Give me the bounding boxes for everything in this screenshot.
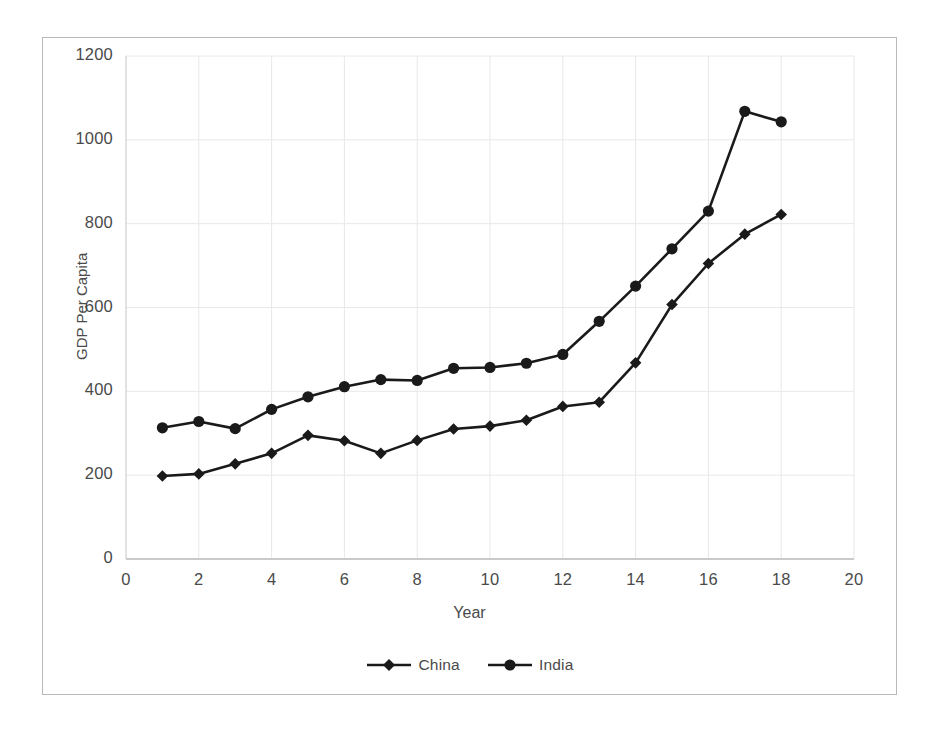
chart-legend: ChinaIndia	[43, 656, 896, 674]
y-axis-tick-label: 800	[85, 213, 113, 232]
legend-label: China	[418, 656, 460, 674]
data-point-marker	[484, 362, 495, 373]
x-axis-tick-label: 12	[538, 570, 588, 589]
legend-marker	[383, 659, 395, 671]
data-point-marker	[557, 401, 569, 413]
data-point-marker	[448, 423, 460, 435]
data-point-marker	[594, 316, 605, 327]
x-axis-title: Year	[43, 604, 896, 622]
data-point-marker	[557, 349, 568, 360]
y-axis-tick-label: 1000	[75, 129, 113, 148]
data-point-marker	[412, 375, 423, 386]
y-axis-tick-label: 1200	[75, 45, 113, 64]
series-line-china	[162, 214, 781, 476]
data-point-marker	[411, 435, 423, 447]
y-axis-tick-label: 600	[85, 297, 113, 316]
data-point-marker	[630, 281, 641, 292]
x-axis-tick-label: 0	[101, 570, 151, 589]
data-point-marker	[266, 404, 277, 415]
x-axis-tick-label: 14	[611, 570, 661, 589]
x-axis-tick-label: 20	[829, 570, 879, 589]
x-axis-tick-label: 16	[683, 570, 733, 589]
data-point-marker	[339, 381, 350, 392]
data-point-marker	[157, 422, 168, 433]
data-point-marker	[302, 430, 314, 442]
diamond-marker-icon	[365, 657, 413, 673]
x-axis-tick-label: 6	[319, 570, 369, 589]
data-point-marker	[302, 391, 313, 402]
data-point-marker	[775, 209, 787, 221]
y-axis-tick-label: 0	[104, 548, 113, 567]
data-point-marker	[666, 243, 677, 254]
data-point-marker	[229, 458, 241, 470]
data-point-marker	[448, 363, 459, 374]
legend-marker	[504, 659, 515, 670]
legend-item-china[interactable]: China	[365, 656, 460, 674]
x-axis-tick-label: 2	[174, 570, 224, 589]
legend-item-india[interactable]: India	[486, 656, 574, 674]
y-axis-tick-label: 400	[85, 380, 113, 399]
data-point-marker	[484, 420, 496, 432]
data-point-marker	[521, 358, 532, 369]
data-point-marker	[375, 448, 387, 460]
y-axis-tick-label: 200	[85, 464, 113, 483]
circle-marker-icon	[486, 657, 534, 673]
legend-label: India	[539, 656, 574, 674]
plot-canvas	[43, 38, 898, 696]
data-point-marker	[193, 416, 204, 427]
data-point-marker	[739, 106, 750, 117]
data-point-marker	[266, 448, 278, 460]
x-axis-tick-label: 4	[247, 570, 297, 589]
series-line-india	[162, 111, 781, 428]
grid-lines	[126, 56, 854, 559]
x-axis-tick-label: 10	[465, 570, 515, 589]
data-point-marker	[521, 414, 533, 426]
data-point-marker	[230, 423, 241, 434]
data-point-marker	[157, 470, 169, 482]
series-india	[157, 106, 787, 435]
series-china	[157, 209, 787, 482]
x-axis-tick-label: 18	[756, 570, 806, 589]
chart-frame: GDP Per Capita Year ChinaIndia 020040060…	[42, 37, 897, 695]
data-point-marker	[339, 435, 351, 447]
data-point-marker	[776, 116, 787, 127]
data-point-marker	[193, 468, 205, 480]
data-point-marker	[375, 374, 386, 385]
x-axis-tick-label: 8	[392, 570, 442, 589]
data-point-marker	[703, 205, 714, 216]
